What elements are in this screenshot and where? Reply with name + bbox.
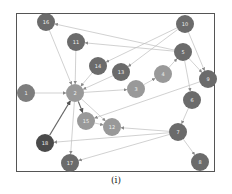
- node-3: 3: [127, 80, 145, 98]
- edge-2-15: [78, 101, 82, 112]
- node-label: 10: [182, 21, 188, 27]
- edge-2-3: [84, 90, 127, 93]
- node-4: 4: [154, 65, 172, 83]
- network-graph: 161110514134912361512187178: [0, 0, 232, 194]
- node-label: 15: [83, 118, 89, 124]
- node-label: 5: [181, 49, 184, 55]
- node-18: 18: [36, 134, 54, 152]
- node-label: 7: [176, 129, 179, 135]
- edge-2-17: [71, 102, 75, 154]
- node-2: 2: [66, 84, 84, 102]
- node-label: 8: [198, 159, 201, 165]
- node-label: 14: [95, 63, 101, 69]
- node-11: 11: [67, 33, 85, 51]
- node-label: 2: [73, 90, 76, 96]
- node-13: 13: [112, 63, 130, 81]
- edge-7-17: [79, 134, 170, 160]
- node-10: 10: [176, 15, 194, 33]
- node-label: 4: [161, 71, 164, 77]
- node-7: 7: [169, 123, 187, 141]
- edge-7-8: [183, 139, 194, 154]
- node-label: 6: [190, 97, 193, 103]
- node-5: 5: [174, 43, 192, 61]
- edge-7-12: [121, 128, 169, 132]
- edge-15-12: [95, 123, 103, 125]
- edge-14-2: [81, 73, 92, 86]
- node-label: 9: [206, 76, 209, 82]
- node-9: 9: [199, 70, 217, 88]
- node-1: 1: [17, 84, 35, 102]
- figure-caption: (i): [0, 175, 232, 185]
- node-17: 17: [61, 154, 79, 172]
- edge-11-2: [75, 51, 76, 84]
- nodes-layer: 161110514134912361512187178: [17, 13, 217, 172]
- edge-18-2: [50, 101, 71, 136]
- node-16: 16: [37, 13, 55, 31]
- node-6: 6: [183, 91, 201, 109]
- node-label: 13: [118, 69, 124, 75]
- node-12: 12: [103, 118, 121, 136]
- node-label: 12: [109, 124, 115, 130]
- node-8: 8: [191, 153, 209, 171]
- node-label: 1: [24, 90, 27, 96]
- node-label: 17: [67, 160, 73, 166]
- edge-6-7: [182, 108, 189, 124]
- edge-3-4: [144, 78, 155, 84]
- node-15: 15: [77, 112, 95, 130]
- node-label: 16: [43, 19, 49, 25]
- edge-4-5: [169, 59, 177, 68]
- node-14: 14: [89, 57, 107, 75]
- node-label: 3: [134, 86, 137, 92]
- node-label: 18: [42, 140, 48, 146]
- node-label: 11: [73, 39, 79, 45]
